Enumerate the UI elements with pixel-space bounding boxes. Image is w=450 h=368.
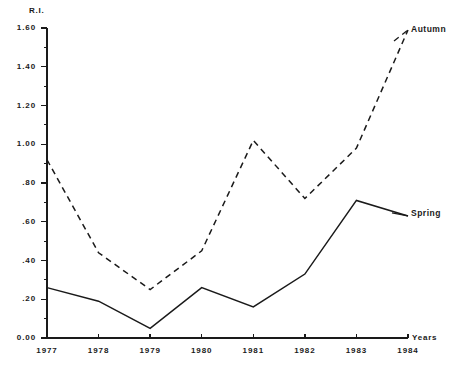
y-axis-major-ticks xyxy=(41,28,47,338)
series-label-autumn: Autumn xyxy=(411,24,446,34)
axes-group xyxy=(47,28,408,338)
y-tick-label: 1.00 xyxy=(0,139,36,148)
x-tick-label: 1977 xyxy=(22,346,72,355)
autumn-label-leader xyxy=(394,30,408,41)
y-tick-label: 0.00 xyxy=(0,333,36,342)
x-tick-label: 1983 xyxy=(331,346,381,355)
x-tick-label: 1979 xyxy=(125,346,175,355)
series-line-autumn xyxy=(47,30,408,290)
y-tick-label: 1.60 xyxy=(0,23,36,32)
x-tick-label: 1982 xyxy=(280,346,330,355)
y-tick-label: .20 xyxy=(0,294,36,303)
x-tick-label: 1984 xyxy=(383,346,433,355)
x-tick-label: 1981 xyxy=(228,346,278,355)
y-tick-label: 1.20 xyxy=(0,101,36,110)
x-tick-label: 1980 xyxy=(177,346,227,355)
x-tick-label: 1978 xyxy=(74,346,124,355)
series-line-spring xyxy=(47,200,408,328)
y-axis-title: R.I. xyxy=(29,6,45,15)
chart-plot-area xyxy=(0,0,450,368)
y-tick-label: .40 xyxy=(0,256,36,265)
x-axis-title: Years xyxy=(412,333,437,342)
y-tick-label: .80 xyxy=(0,178,36,187)
y-tick-label: .60 xyxy=(0,217,36,226)
series-label-spring: Spring xyxy=(411,208,441,218)
y-tick-label: 1.40 xyxy=(0,62,36,71)
chart-container: R.I. Years 0.00.20.40.60.801.001.201.401… xyxy=(0,0,450,368)
